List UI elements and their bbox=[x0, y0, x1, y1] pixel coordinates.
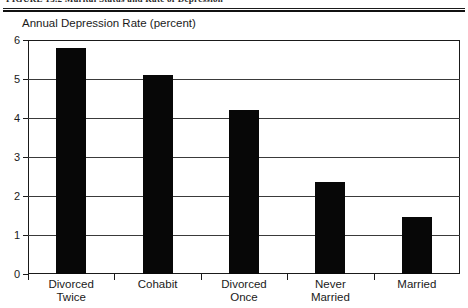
chart-y-tick-mark bbox=[23, 40, 28, 41]
chart-gridline bbox=[28, 79, 460, 80]
chart-x-label: Never Married bbox=[285, 278, 375, 303]
chart-y-tick-mark bbox=[23, 235, 28, 236]
chart-x-axis-labels: Divorced TwiceCohabitDivorced OnceNever … bbox=[28, 278, 460, 308]
chart-y-tick-label: 0 bbox=[14, 269, 20, 280]
chart-x-label: Divorced Once bbox=[199, 278, 289, 303]
caption-rule-thick bbox=[3, 10, 465, 12]
chart-plot-area: 0123456 bbox=[28, 40, 460, 274]
chart-y-tick-mark bbox=[23, 79, 28, 80]
chart-y-tick-label: 4 bbox=[14, 113, 20, 124]
chart-bar bbox=[402, 217, 432, 274]
chart-bar bbox=[143, 75, 173, 274]
chart-x-label: Divorced Twice bbox=[26, 278, 116, 303]
chart-y-tick-mark bbox=[23, 157, 28, 158]
chart-y-tick-mark bbox=[23, 118, 28, 119]
chart-bar bbox=[229, 110, 259, 274]
figure-caption-text: FIGURE 13.2 Marital Status and Rate of D… bbox=[6, 0, 223, 4]
chart-y-tick-label: 3 bbox=[14, 152, 20, 163]
chart-bar bbox=[56, 48, 86, 274]
chart-x-label: Married bbox=[372, 278, 462, 291]
chart-y-tick-label: 1 bbox=[14, 230, 20, 241]
chart-y-tick-label: 2 bbox=[14, 191, 20, 202]
chart-bar bbox=[315, 182, 345, 274]
chart-y-tick-label: 5 bbox=[14, 74, 20, 85]
chart-axis-title: Annual Depression Rate (percent) bbox=[22, 17, 196, 29]
chart-x-label: Cohabit bbox=[113, 278, 203, 291]
caption-rule-thin bbox=[3, 8, 465, 9]
chart-y-tick-mark bbox=[23, 196, 28, 197]
chart-y-tick-label: 6 bbox=[14, 35, 20, 46]
